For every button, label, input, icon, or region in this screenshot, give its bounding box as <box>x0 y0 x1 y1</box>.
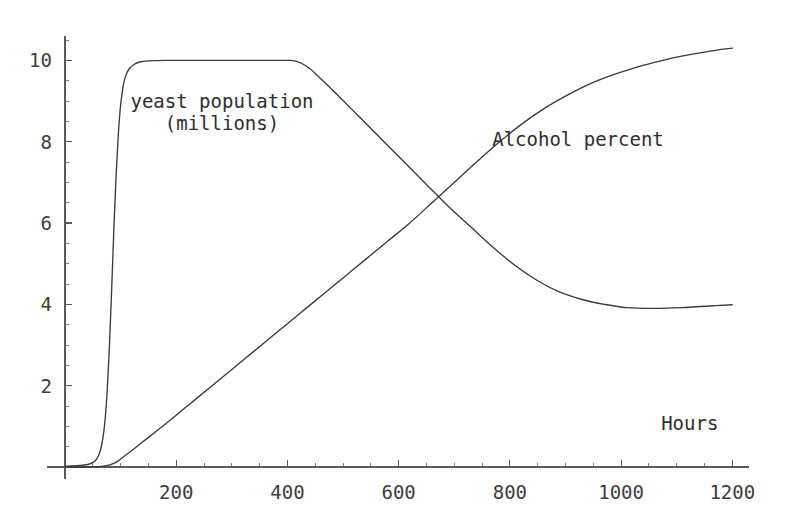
x-tick-label: 1000 <box>598 483 644 502</box>
x-axis-label: Hours <box>661 412 718 434</box>
series-label-line: Alcohol percent <box>492 128 664 150</box>
chart-figure: 20040060080010001200 246810 yeast popula… <box>0 0 786 528</box>
x-tick-label: 200 <box>159 483 193 502</box>
plot-canvas <box>0 0 786 528</box>
series-label-alcohol-percent: Alcohol percent <box>492 128 664 150</box>
series-label-yeast-population: yeast population(millions) <box>130 90 313 135</box>
x-tick-label: 600 <box>381 483 415 502</box>
y-tick-label: 2 <box>0 376 52 395</box>
y-tick-label: 10 <box>0 51 52 70</box>
x-tick-label: 400 <box>270 483 304 502</box>
y-tick-label: 8 <box>0 132 52 151</box>
y-tick-label: 6 <box>0 214 52 233</box>
x-tick-label: 800 <box>493 483 527 502</box>
y-tick-label: 4 <box>0 295 52 314</box>
series-label-line: yeast population <box>130 90 313 112</box>
series-label-line: (millions) <box>130 112 313 134</box>
x-tick-label: 1200 <box>709 483 755 502</box>
